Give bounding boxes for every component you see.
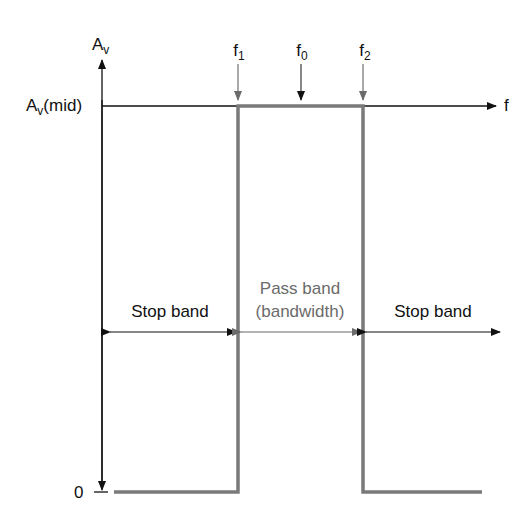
y-axis-label: Av bbox=[92, 36, 109, 56]
bandwidth-label: (bandwidth) bbox=[256, 303, 345, 320]
right-stop-band-label: Stop band bbox=[394, 303, 472, 320]
zero-label: 0 bbox=[74, 484, 83, 501]
left-stop-band-label: Stop band bbox=[131, 303, 209, 320]
ideal-response-curve bbox=[114, 106, 482, 492]
pass-band-label: Pass band bbox=[260, 280, 340, 297]
f0-label: f0 bbox=[296, 42, 307, 62]
f2-label: f2 bbox=[359, 42, 370, 62]
f1-label: f1 bbox=[233, 42, 244, 62]
bandpass-diagram bbox=[0, 0, 529, 530]
mid-gain-label: Av(mid) bbox=[26, 97, 82, 117]
x-axis-label: f bbox=[504, 97, 509, 114]
